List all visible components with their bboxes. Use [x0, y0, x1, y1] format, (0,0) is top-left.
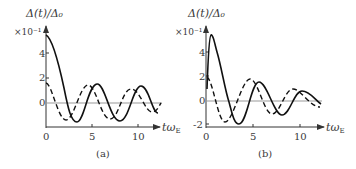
x-tick-5: 5 — [250, 131, 256, 142]
y-tick-4: 4 — [39, 48, 45, 59]
y-tick-2: 2 — [199, 71, 205, 82]
y-tick-0: 0 — [39, 97, 45, 108]
y-tick-0: 0 — [199, 95, 205, 106]
x-axis-title: tωE — [162, 121, 181, 135]
panel-a: Δ(t)/Δ₀ ×10⁻¹ 4 2 0 0 5 10 tωE (a) — [14, 7, 181, 159]
panel-caption-a: (a) — [96, 148, 110, 159]
y-axis-title: Δ(t)/Δ₀ — [25, 7, 64, 20]
x-tick-10: 10 — [132, 131, 145, 142]
y-axis-title: Δ(t)/Δ₀ — [187, 7, 226, 20]
y-tick-4: 4 — [199, 47, 205, 58]
y-tick-neg2: -2 — [193, 119, 203, 130]
panel-b: Δ(t)/Δ₀ ×10⁻¹ 4 2 0 -2 0 5 10 tωE (b) — [175, 7, 345, 159]
dashed-curve — [46, 83, 161, 120]
y-scale-label: ×10⁻¹ — [175, 27, 202, 37]
panel-caption-b: (b) — [258, 148, 272, 159]
figure: Δ(t)/Δ₀ ×10⁻¹ 4 2 0 0 5 10 tωE (a) Δ(t)/… — [0, 0, 356, 169]
x-axis-title: tωE — [326, 121, 345, 135]
y-scale-label: ×10⁻¹ — [14, 27, 41, 37]
x-tick-0: 0 — [203, 131, 209, 142]
y-tick-2: 2 — [39, 72, 45, 83]
x-tick-5: 5 — [89, 131, 95, 142]
solid-curve — [207, 35, 321, 124]
x-tick-0: 0 — [43, 131, 49, 142]
x-tick-10: 10 — [294, 131, 307, 142]
